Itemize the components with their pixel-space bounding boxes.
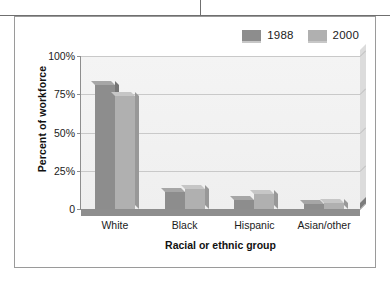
bar-group-asian-other [304, 56, 344, 209]
x-tick-label-black: Black [172, 219, 198, 231]
bar-2000-black [185, 189, 205, 209]
bar-group-white [95, 56, 135, 209]
bar-1988-asian-other [304, 204, 324, 209]
y-tick-label-75: 75% [15, 88, 75, 100]
chart-figure-box: 1988 2000 Percent of workforce 025%50%75… [14, 16, 376, 268]
bar-1988-white [95, 85, 115, 209]
plot-floor [81, 209, 360, 216]
y-tick-label-25: 25% [15, 165, 75, 177]
x-axis-title: Racial or ethnic group [81, 239, 360, 251]
chart-plot-container: Percent of workforce 025%50%75%100% Whit… [15, 17, 377, 269]
bar-1988-hispanic [234, 200, 254, 209]
x-axis-tick-labels: WhiteBlackHispanicAsian/other [81, 219, 360, 235]
bar-group-black [165, 56, 205, 209]
bar-group-hispanic [234, 56, 274, 209]
y-tick-mark-0 [77, 209, 81, 210]
x-tick-label-white: White [101, 219, 128, 231]
chart-bars [81, 56, 360, 209]
x-tick-label-hispanic: Hispanic [234, 219, 274, 231]
y-axis-title: Percent of workforce [36, 59, 48, 179]
y-tick-label-0: 0 [15, 203, 75, 215]
bar-1988-black [165, 192, 185, 209]
y-tick-label-50: 50% [15, 127, 75, 139]
gridline-0 [81, 209, 360, 210]
y-tick-label-100: 100% [15, 50, 75, 62]
bar-2000-asian-other [324, 203, 344, 209]
bar-2000-hispanic [254, 194, 274, 209]
x-tick-label-asian-other: Asian/other [298, 219, 351, 231]
page-top-tick-mark [200, 0, 201, 15]
bar-2000-white [115, 96, 135, 209]
